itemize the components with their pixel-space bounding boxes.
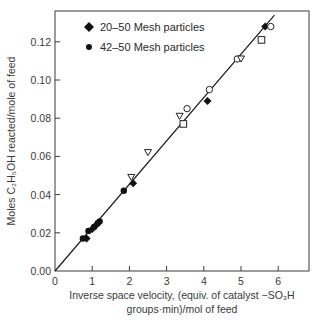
circle-open-marker [268, 23, 274, 29]
circle-filled-marker [121, 188, 127, 194]
legend: 20–50 Mesh particles 42–50 Mesh particle… [84, 21, 205, 53]
diamond-filled-marker [204, 97, 212, 105]
circle-filled-marker [80, 235, 86, 241]
x-tick-label: 0 [52, 275, 58, 287]
square-open-marker [180, 121, 187, 128]
square-open-marker [258, 37, 265, 44]
x-tick-label: 6 [275, 275, 281, 287]
legend-circle-icon [86, 44, 92, 50]
x-axis-ticks: 0123456 [52, 266, 281, 287]
x-axis-label-line1: Inverse space velocity, (equiv. of catal… [69, 289, 294, 301]
y-tick-label: 0.12 [31, 36, 52, 48]
diamond-filled-marker [129, 179, 137, 187]
circle-filled-marker [96, 218, 102, 224]
data-points [80, 23, 274, 243]
legend-label-42-50: 42–50 Mesh particles [100, 41, 205, 53]
x-tick-label: 5 [238, 275, 244, 287]
legend-label-20-50: 20–50 Mesh particles [100, 21, 205, 33]
y-tick-label: 0.06 [31, 150, 52, 162]
y-axis-label: Moles C₂H₅OH reacted/mole of feed [5, 56, 17, 225]
y-tick-label: 0.04 [31, 189, 52, 201]
x-tick-label: 3 [164, 275, 170, 287]
x-tick-label: 1 [89, 275, 95, 287]
y-tick-label: 0.00 [31, 265, 52, 277]
legend-diamond-icon [84, 22, 94, 32]
x-tick-label: 2 [126, 275, 132, 287]
scatter-chart: 0123456 0.000.020.040.060.080.100.12 20–… [0, 0, 320, 322]
circle-filled-marker [85, 228, 91, 234]
y-tick-label: 0.10 [31, 74, 52, 86]
circle-open-marker [184, 105, 190, 111]
circle-open-marker [206, 86, 212, 92]
y-tick-label: 0.08 [31, 112, 52, 124]
x-axis-label-line2: groups·min)/mol of feed [127, 303, 238, 315]
triangle-open-marker [145, 150, 152, 156]
y-axis-ticks: 0.000.020.040.060.080.100.12 [31, 36, 60, 277]
y-tick-label: 0.02 [31, 227, 52, 239]
x-tick-label: 4 [201, 275, 207, 287]
triangle-open-marker [176, 113, 183, 119]
